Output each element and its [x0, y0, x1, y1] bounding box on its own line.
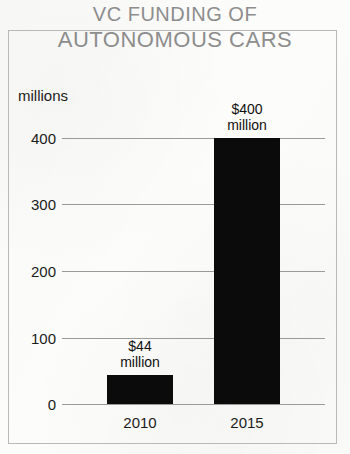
x-tick-label-2010: 2010: [95, 414, 185, 431]
chart-scene: VC FUNDING OF AUTONOMOUS CARS millions 4…: [0, 0, 350, 454]
y-tick-label-0: 0: [10, 396, 56, 413]
chart-title-line-1: VC FUNDING OF: [0, 4, 350, 24]
bar-label-2015: $400 million: [202, 102, 292, 133]
y-tick-label-400: 400: [10, 130, 56, 147]
bar-label-2015-line-2: million: [227, 117, 267, 133]
bar-label-2010-line-2: million: [120, 354, 160, 370]
y-tick-label-200: 200: [10, 263, 56, 280]
gridline-200: [62, 271, 325, 272]
y-tick-label-100: 100: [10, 330, 56, 347]
plot-area: millions 400 300 200 100 0 $44 million $…: [0, 0, 350, 454]
x-tick-label-2015: 2015: [202, 414, 292, 431]
chart-title-line-2: AUTONOMOUS CARS: [0, 29, 350, 51]
gridline-400: [62, 138, 325, 139]
chart-title: VC FUNDING OF AUTONOMOUS CARS: [0, 4, 350, 51]
gridline-300: [62, 204, 325, 205]
bar-2015: [214, 138, 280, 404]
bar-label-2010-line-1: $44: [128, 338, 151, 354]
bar-label-2010: $44 million: [95, 339, 185, 370]
bar-2010: [107, 375, 173, 404]
gridline-0: [62, 404, 325, 405]
bar-label-2015-line-1: $400: [231, 101, 262, 117]
y-axis-label: millions: [18, 87, 68, 104]
y-tick-label-300: 300: [10, 196, 56, 213]
